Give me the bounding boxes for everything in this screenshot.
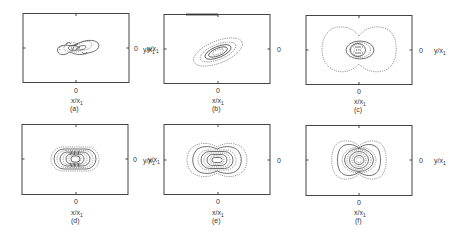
xtick-label: 0 — [357, 88, 361, 95]
xtick-label: 0 — [74, 87, 78, 94]
xtick-label: 0 — [357, 199, 361, 206]
xtick-label: 0 — [216, 87, 220, 94]
panel-c: 0 y/x1 0 x/x1 (c) — [306, 16, 446, 115]
contours — [57, 40, 98, 54]
panel-caption: (c) — [354, 106, 362, 114]
xtick-label: 0 — [74, 198, 78, 205]
plot-frame — [23, 14, 129, 83]
contours — [332, 141, 387, 179]
plot-frame — [164, 15, 270, 84]
contours — [322, 27, 396, 72]
panel-b: y/x1 0 0 x/x1 (b) — [143, 15, 281, 114]
contours — [187, 143, 247, 176]
panel-caption: (e) — [212, 217, 221, 225]
ytick-label: 0 — [419, 47, 423, 54]
ytick-label: 0 — [133, 156, 137, 163]
panel-caption: (b) — [212, 105, 221, 113]
y-axis-label: y/x1 — [434, 47, 446, 56]
panel-f: 0 y/x1 0 x/x1 (f) — [306, 126, 446, 226]
contours — [51, 147, 99, 171]
ytick-label: 0 — [419, 157, 423, 164]
panel-caption: (a) — [70, 105, 79, 113]
panel-a: 0 y/x1 0 x/x1 (a) — [23, 14, 159, 114]
ytick-label: 0 — [277, 46, 281, 53]
contours — [190, 32, 246, 72]
ytick-label: 0 — [277, 157, 281, 164]
panel-caption: (d) — [71, 217, 80, 225]
xtick-label: 0 — [216, 198, 220, 205]
figure-canvas: 0 y/x1 0 x/x1 (a) y/x1 0 0 x/x1 (b) — [0, 0, 467, 233]
plot-frame — [22, 125, 128, 195]
ytick-label: 0 — [134, 45, 138, 52]
panel-e: y/x1 0 0 x/x1 (e) — [143, 125, 281, 226]
y-axis-label: y/x1 — [434, 157, 446, 166]
panel-caption: (f) — [355, 217, 362, 225]
panel-d: 0 y/x1 0 x/x1 (d) — [22, 125, 160, 226]
